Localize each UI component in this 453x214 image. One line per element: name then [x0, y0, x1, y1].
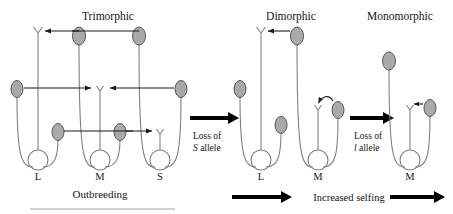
transition-label-line2: l allele [354, 143, 380, 153]
transition-loss-l-allele: Loss of l allele [350, 112, 394, 153]
stigma-y-icon [315, 105, 322, 115]
transition-arrow-head [228, 112, 239, 124]
anther-ellipse [424, 100, 436, 117]
anther-ellipse [291, 27, 304, 45]
anther-ellipse [332, 102, 344, 119]
anther-ellipse [114, 124, 126, 141]
anther-ellipse [133, 27, 146, 45]
heading-trimorphic: Trimorphic [82, 10, 134, 23]
morph-label-M: M [313, 171, 323, 182]
anther-ellipse [234, 81, 246, 98]
stamen-filament [297, 42, 313, 167]
pollination-morph-evolution-diagram: Trimorphic Dimorphic Monomorphic L [0, 0, 453, 214]
stigma-y-icon [257, 27, 266, 41]
stamen-filament [79, 42, 95, 167]
selfing-arrow-head-right [434, 191, 445, 203]
stigma-y-icon [157, 129, 164, 139]
morph-dimorphic-M: M [291, 27, 345, 182]
morph-trimorphic-L: L [11, 27, 64, 182]
diagram-canvas: Trimorphic Dimorphic Monomorphic L [0, 0, 453, 214]
morph-dimorphic-L: L [234, 27, 287, 182]
morph-label-M: M [95, 171, 105, 182]
stigma-y-icon [97, 86, 104, 96]
bottom-axis-label: Increased selfing [313, 192, 385, 203]
morph-label-S: S [157, 171, 163, 182]
panel-trimorphic: L M [11, 27, 187, 209]
anther-ellipse [11, 81, 23, 98]
morph-label-L: L [35, 171, 41, 182]
heading-monomorphic: Monomorphic [367, 10, 433, 23]
selfing-arrow-head-left [281, 191, 292, 203]
transition-label-line2: S allele [193, 143, 221, 153]
anther-ellipse [383, 52, 396, 70]
stamen-filament [139, 42, 155, 167]
transition-loss-s-allele: Loss of S allele [190, 112, 239, 153]
bottom-axis-increased-selfing: Increased selfing [232, 191, 445, 203]
anther-ellipse [275, 117, 287, 134]
morph-trimorphic-S: S [133, 27, 188, 182]
panel-dimorphic: L M [234, 27, 344, 182]
morph-label-M: M [405, 171, 415, 182]
stigma-y-icon [407, 105, 414, 115]
anther-ellipse [52, 124, 64, 141]
morph-label-L: L [258, 171, 264, 182]
transition-label-line1: Loss of [354, 131, 383, 141]
anther-ellipse [73, 27, 86, 45]
transition-arrow-head [383, 112, 394, 124]
stigma-y-icon [34, 27, 43, 41]
transition-label-line1: Loss of [193, 131, 222, 141]
heading-dimorphic: Dimorphic [266, 10, 316, 23]
morph-trimorphic-M: M [73, 27, 127, 182]
self-pollination-curved-arrow [319, 97, 334, 103]
caption-outbreeding: Outbreeding [73, 188, 128, 200]
anther-ellipse [175, 81, 187, 98]
